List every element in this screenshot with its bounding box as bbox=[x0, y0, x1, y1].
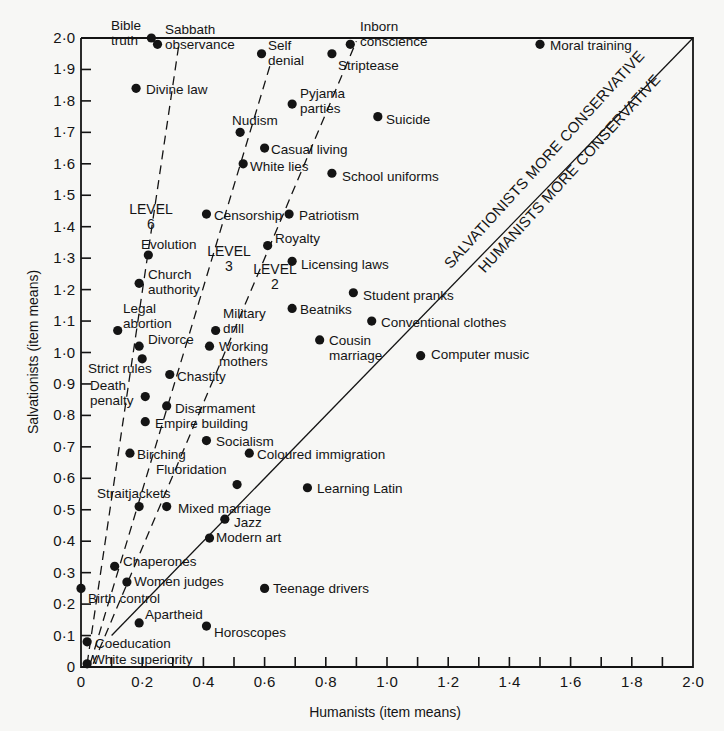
x-tick-label: 1·4 bbox=[499, 673, 521, 690]
point-label: Legalabortion bbox=[123, 301, 172, 331]
point-label: Deathpenalty bbox=[90, 378, 134, 408]
data-point bbox=[110, 562, 119, 571]
point-label: Teenage drivers bbox=[273, 581, 369, 596]
point-label: Inbornconscience bbox=[360, 19, 428, 49]
y-axis-title: Salvationists (item means) bbox=[25, 270, 41, 434]
data-point bbox=[260, 143, 269, 152]
y-axis: 00·10·20·30·40·50·60·70·80·91·01·11·21·3… bbox=[53, 29, 91, 675]
point-label: Sabbathobservance bbox=[165, 22, 235, 52]
data-point bbox=[236, 128, 245, 137]
point-label: Modern art bbox=[216, 530, 282, 545]
x-tick-label: 1·2 bbox=[437, 673, 459, 690]
point-label: Birching bbox=[137, 447, 186, 462]
y-tick-label: 1·9 bbox=[53, 60, 75, 77]
y-tick-label: 2·0 bbox=[53, 29, 75, 46]
data-point bbox=[131, 84, 140, 93]
y-tick-label: 1·1 bbox=[53, 312, 75, 329]
point-label: Empire building bbox=[155, 416, 248, 431]
data-point bbox=[257, 49, 266, 58]
data-point bbox=[315, 335, 324, 344]
level-label: LEVEL3 bbox=[207, 243, 251, 274]
point-label: School uniforms bbox=[342, 169, 439, 184]
x-tick-label: 0 bbox=[77, 673, 85, 690]
y-tick-label: 0 bbox=[67, 658, 75, 675]
x-tick-label: 1·8 bbox=[621, 673, 643, 690]
point-label: Churchauthority bbox=[148, 267, 200, 297]
y-tick-label: 1·6 bbox=[53, 155, 75, 172]
point-label: Beatniks bbox=[300, 302, 352, 317]
point-label: Bibletruth bbox=[111, 18, 141, 48]
level-label: LEVEL6 bbox=[129, 201, 173, 232]
data-point bbox=[239, 159, 248, 168]
y-tick-label: 0·8 bbox=[53, 406, 75, 423]
point-label: Birth control bbox=[88, 591, 160, 606]
data-point bbox=[122, 577, 131, 586]
point-label: Moral training bbox=[550, 38, 632, 53]
data-point bbox=[284, 210, 293, 219]
y-tick-label: 1·8 bbox=[53, 92, 75, 109]
y-tick-label: 0·9 bbox=[53, 375, 75, 392]
level-line bbox=[87, 44, 179, 664]
data-point bbox=[205, 533, 214, 542]
point-label: Women judges bbox=[134, 574, 224, 589]
diagonal-label-humanists: HUMANISTS MORE CONSERVATIVE bbox=[474, 71, 663, 276]
data-point bbox=[416, 351, 425, 360]
point-label: Patriotism bbox=[299, 208, 359, 223]
y-tick-label: 1·5 bbox=[53, 186, 75, 203]
y-tick-label: 0·6 bbox=[53, 469, 75, 486]
point-label: Conventional clothes bbox=[381, 315, 507, 330]
data-point bbox=[165, 370, 174, 379]
data-point bbox=[125, 449, 134, 458]
point-label: Chastity bbox=[177, 369, 226, 384]
data-point bbox=[346, 40, 355, 49]
point-label: Divorce bbox=[148, 332, 194, 347]
x-tick-label: 0·2 bbox=[131, 673, 153, 690]
data-point bbox=[288, 304, 297, 313]
data-point bbox=[202, 210, 211, 219]
point-labels: BibletruthSabbathobservanceSelfdenialStr… bbox=[88, 18, 632, 667]
data-point bbox=[162, 401, 171, 410]
point-label: Striptease bbox=[338, 58, 399, 73]
point-label: Coeducation bbox=[95, 636, 171, 651]
point-label: Strict rules bbox=[88, 361, 152, 376]
point-label: Straitjackets bbox=[97, 486, 171, 501]
y-tick-label: 0·7 bbox=[53, 438, 75, 455]
y-tick-label: 1·4 bbox=[53, 218, 75, 235]
data-point bbox=[83, 637, 92, 646]
y-tick-label: 0·5 bbox=[53, 501, 75, 518]
data-point bbox=[135, 502, 144, 511]
point-label: Mixed marriage bbox=[178, 501, 271, 516]
data-point bbox=[135, 618, 144, 627]
point-label: White superiority bbox=[92, 652, 193, 667]
data-point bbox=[205, 342, 214, 351]
data-point bbox=[327, 49, 336, 58]
point-label: Selfdenial bbox=[268, 38, 304, 68]
point-label: Jazz bbox=[234, 515, 262, 530]
point-label: Workingmothers bbox=[219, 339, 268, 369]
y-tick-label: 0·1 bbox=[53, 627, 75, 644]
data-point bbox=[260, 584, 269, 593]
y-tick-label: 1·3 bbox=[53, 249, 75, 266]
data-point bbox=[232, 480, 241, 489]
point-label: White lies bbox=[250, 159, 309, 174]
data-point bbox=[202, 622, 211, 631]
point-label: Censorship bbox=[214, 208, 282, 223]
x-axis-title: Humanists (item means) bbox=[309, 704, 461, 720]
x-tick-label: 0·4 bbox=[193, 673, 215, 690]
point-label: Licensing laws bbox=[301, 257, 389, 272]
data-point bbox=[263, 241, 272, 250]
data-point bbox=[113, 326, 122, 335]
point-label: Evolution bbox=[141, 237, 197, 252]
scatter-chart: 00·10·20·30·40·50·60·70·80·91·01·11·21·3… bbox=[0, 0, 724, 731]
x-tick-label: 2·0 bbox=[682, 673, 704, 690]
point-label: Militarydrill bbox=[223, 306, 266, 336]
data-point bbox=[83, 659, 92, 668]
data-point bbox=[162, 502, 171, 511]
data-point bbox=[202, 436, 211, 445]
data-point bbox=[153, 40, 162, 49]
point-label: Pyjamaparties bbox=[300, 86, 346, 116]
data-point bbox=[535, 40, 544, 49]
point-label: Cousinmarriage bbox=[329, 333, 382, 363]
point-label: Coloured immigration bbox=[257, 447, 385, 462]
y-tick-label: 1·7 bbox=[53, 123, 75, 140]
